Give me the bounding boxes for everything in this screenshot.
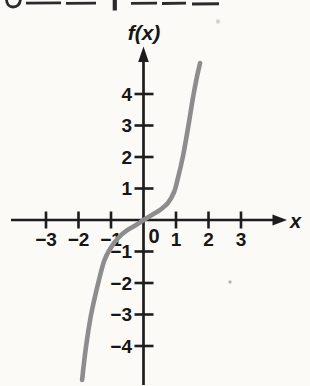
scan-speck [228,280,231,283]
y-tick-label: −3 [110,304,132,325]
graph-figure: −3−2−1123 4321−1−2−3−4 f(x) x 0 [0,0,310,386]
x-tick-label: 1 [171,229,182,250]
y-tick-label: −2 [110,273,132,294]
page-background [0,0,310,386]
scan-smudge [216,19,220,23]
x-tick-label: 2 [203,229,214,250]
function-graph-canvas: −3−2−1123 4321−1−2−3−4 f(x) x 0 [0,0,310,386]
x-tick-label: −3 [35,229,57,250]
x-tick-label: 3 [236,229,247,250]
x-axis-title: x [289,210,302,232]
y-axis-title: f(x) [128,21,161,44]
y-tick-label: −4 [110,336,132,357]
origin-label: 0 [149,225,160,247]
y-tick-label: 4 [121,84,132,105]
y-tick-label: 3 [121,115,132,136]
x-tick-label: −2 [68,229,90,250]
y-tick-label: 1 [121,178,132,199]
y-tick-label: 2 [121,147,132,168]
